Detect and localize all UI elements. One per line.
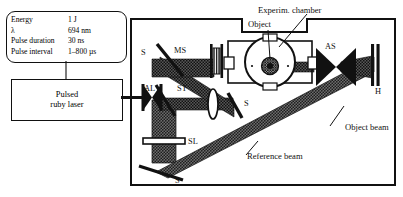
label-al: AL <box>144 85 155 93</box>
object-beam-leader <box>330 106 344 126</box>
label-as: AS <box>325 43 336 51</box>
setup-drawing <box>0 0 403 197</box>
label-s-mid-right: S <box>244 100 249 108</box>
label-h: H <box>375 88 381 96</box>
label-st: ST <box>177 85 187 93</box>
hologram-plate-h <box>371 44 380 86</box>
object-sample <box>262 58 279 75</box>
label-reference-beam: Reference beam <box>247 152 303 161</box>
spread-lens-sl <box>143 138 185 144</box>
label-s-bottom: S <box>175 177 180 185</box>
label-object-beam: Object beam <box>345 123 389 132</box>
collimating-lens <box>208 89 218 119</box>
label-object: Object <box>248 20 271 29</box>
label-sl: SL <box>188 138 198 146</box>
optical-setup-figure: Energy 1 J λ 694 nm Pulse duration 30 ns… <box>0 0 403 197</box>
microscope-screen-ms <box>210 44 223 78</box>
label-experimental-chamber: Experim. chamber <box>258 6 321 15</box>
label-ms: MS <box>174 47 186 55</box>
chamber-leader-line <box>279 14 307 47</box>
label-s-top-left: S <box>141 49 146 57</box>
